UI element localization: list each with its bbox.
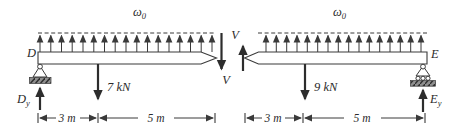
dimension-line-left: 3 m 5 m — [38, 112, 215, 124]
roller-icon — [416, 76, 420, 80]
roller-support-e — [411, 64, 436, 86]
pin-support-d — [30, 64, 52, 83]
dimension-line-right: 3 m 5 m — [245, 112, 425, 124]
right-beam — [245, 52, 428, 64]
point-load-label-9kn: 9 kN — [314, 80, 338, 94]
dim-label-5m-right: 5 m — [354, 112, 371, 124]
distributed-load-arrows-left — [40, 36, 212, 53]
distributed-load-arrows-right — [266, 36, 421, 53]
ground-hatch — [30, 78, 52, 84]
end-label-d: D — [26, 46, 36, 60]
shear-label-left: V — [222, 73, 231, 87]
ground-hatch — [411, 81, 436, 87]
distributed-load-label-left: ω0 — [133, 5, 147, 21]
roller-icon — [426, 76, 430, 80]
left-beam — [38, 52, 217, 64]
reaction-label-ey: Ey — [429, 92, 442, 108]
dim-label-3m-right: 3 m — [264, 112, 282, 124]
end-label-e: E — [430, 47, 439, 61]
reaction-label-dy: Dy — [16, 92, 30, 108]
dim-label-5m-left: 5 m — [148, 112, 165, 124]
pin-circle — [38, 64, 43, 69]
left-beam-figure: ω0 D Dy 7 kN V 3 m 5 m — [16, 5, 231, 124]
point-load-label-7kn: 7 kN — [107, 80, 131, 94]
right-beam-figure: ω0 E V 9 kN Ey 3 m 5 — [231, 5, 441, 124]
beam-diagram-svg: ω0 D Dy 7 kN V 3 m 5 m — [0, 0, 462, 136]
shear-label-right: V — [231, 28, 240, 42]
pin-circle — [421, 64, 426, 69]
dim-label-3m-left: 3 m — [58, 112, 76, 124]
distributed-load-label-right: ω0 — [333, 5, 347, 21]
beam-diagram-canvas: ω0 D Dy 7 kN V 3 m 5 m — [0, 0, 462, 136]
roller-icon — [421, 76, 425, 80]
